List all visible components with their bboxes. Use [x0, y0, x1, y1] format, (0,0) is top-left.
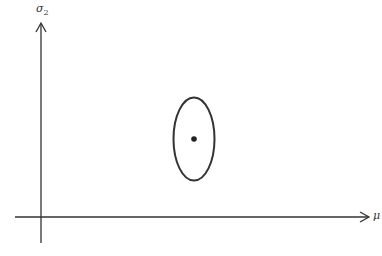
y-axis-subscript: 2: [44, 8, 49, 17]
x-axis-label: μ: [373, 209, 380, 222]
center-point: [191, 136, 197, 142]
y-axis-symbol: σ: [36, 2, 44, 15]
diagram-canvas: [0, 0, 382, 256]
y-axis-label: σ2: [36, 2, 49, 17]
x-axis: [15, 212, 369, 222]
y-axis: [36, 23, 46, 243]
